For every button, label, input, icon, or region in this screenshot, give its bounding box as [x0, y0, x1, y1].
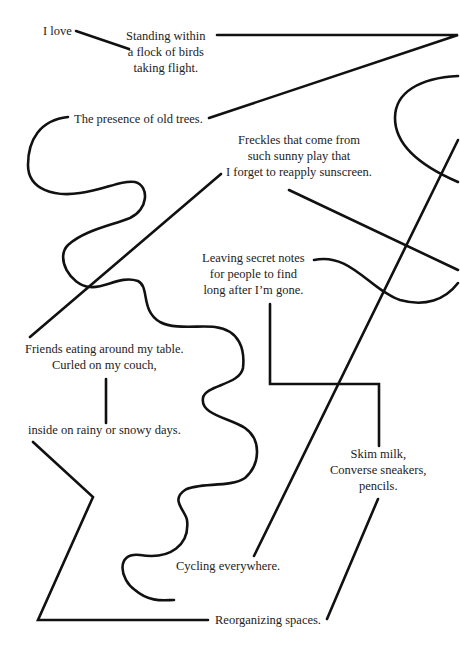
connector-lines	[0, 0, 460, 649]
phrase-freckles: Freckles that come from such sunny play …	[226, 132, 372, 180]
wavy-connector	[395, 76, 458, 182]
phrase-i-love: I love	[43, 23, 72, 39]
phrase-skim-milk: Skim milk, Converse sneakers, pencils.	[330, 446, 427, 494]
connector-line	[327, 499, 378, 619]
connector-line	[209, 35, 458, 118]
phrase-old-trees: The presence of old trees.	[74, 111, 203, 127]
connector-line	[289, 190, 458, 270]
phrase-rainy: inside on rainy or snowy days.	[28, 422, 181, 438]
phrase-birds: Standing within a flock of birds taking …	[126, 28, 206, 76]
phrase-map-canvas: I love Standing within a flock of birds …	[0, 0, 460, 649]
connector-line	[30, 174, 221, 337]
wavy-connector	[314, 259, 458, 303]
phrase-reorganizing: Reorganizing spaces.	[215, 612, 321, 628]
phrase-secret-notes: Leaving secret notes for people to find …	[202, 250, 305, 298]
connector-line	[76, 31, 129, 49]
phrase-cycling: Cycling everywhere.	[176, 558, 280, 574]
phrase-friends: Friends eating around my table. Curled o…	[25, 341, 184, 373]
connector-line	[270, 304, 379, 446]
connector-line	[33, 442, 208, 620]
